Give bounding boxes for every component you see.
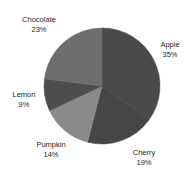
pie-label-lemon: Lemon 9%	[2, 90, 46, 109]
pie-label-pumpkin-value: 14%	[22, 150, 80, 160]
pie-label-cherry-value: 19%	[120, 158, 168, 168]
pie-slice-chocolate	[44, 28, 102, 86]
pie-label-chocolate-name: Chocolate	[8, 15, 70, 25]
pie-label-cherry: Cherry 19%	[120, 148, 168, 167]
pie-label-chocolate-value: 23%	[8, 25, 70, 35]
pie-label-chocolate: Chocolate 23%	[8, 15, 70, 34]
pie-label-pumpkin-name: Pumpkin	[22, 140, 80, 150]
pie-label-cherry-name: Cherry	[120, 148, 168, 158]
pie-label-apple-value: 35%	[150, 50, 190, 60]
pie-label-apple-name: Apple	[150, 40, 190, 50]
pie-label-lemon-value: 9%	[2, 100, 46, 110]
pie-chart: Chocolate 23% Apple 35% Lemon 9% Pumpkin…	[0, 0, 190, 176]
pie-label-lemon-name: Lemon	[2, 90, 46, 100]
pie-label-pumpkin: Pumpkin 14%	[22, 140, 80, 159]
pie-label-apple: Apple 35%	[150, 40, 190, 59]
pie-slice-group	[44, 28, 160, 144]
